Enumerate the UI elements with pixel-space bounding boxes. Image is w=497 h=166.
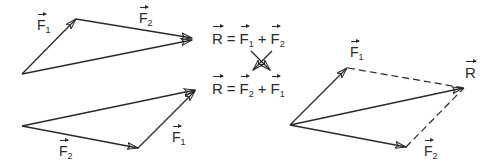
eq-plus: +	[258, 80, 267, 97]
label-letter: F	[139, 11, 148, 25]
eq-lhs: R	[212, 30, 223, 47]
label-subscript: 2	[68, 151, 73, 161]
vector-r	[22, 40, 192, 74]
swap-cross-icon	[251, 51, 272, 70]
label-r: R	[465, 65, 476, 80]
eq-term-a: F	[240, 30, 249, 47]
vector-r	[22, 90, 195, 126]
eq-term-b-sub: 2	[280, 39, 285, 49]
eq-sign: =	[227, 80, 236, 97]
vector-f2	[76, 19, 192, 38]
label-letter: R	[465, 65, 476, 80]
label-f1: F1	[37, 18, 51, 32]
label-subscript: 2	[433, 151, 438, 161]
label-letter: F	[37, 18, 46, 32]
vector-r	[290, 88, 463, 125]
dashed-side-top	[348, 68, 464, 88]
label-f1: F1	[350, 45, 364, 59]
vector-f2	[290, 125, 406, 147]
eq-plus: +	[258, 30, 267, 47]
equation-1: R=F1+F2	[212, 30, 285, 47]
label-letter: F	[59, 144, 68, 158]
dashed-side-right	[406, 88, 464, 147]
label-f2: F2	[59, 144, 73, 158]
label-f2: F2	[139, 11, 153, 25]
eq-term-a: F	[240, 80, 249, 97]
vector-f1	[290, 68, 347, 125]
triangle-f2-f1	[22, 90, 195, 148]
label-subscript: 1	[46, 25, 51, 35]
label-subscript: 2	[148, 18, 153, 28]
label-subscript: 1	[181, 137, 186, 147]
label-f1: F1	[172, 130, 186, 144]
label-letter: F	[350, 45, 359, 59]
eq-sign: =	[227, 30, 236, 47]
equation-2: R=F2+F1	[212, 80, 285, 97]
eq-lhs: R	[212, 80, 223, 97]
eq-term-b: F	[271, 80, 280, 97]
label-letter: F	[424, 144, 433, 158]
eq-term-b: F	[271, 30, 280, 47]
eq-term-b-sub: 1	[280, 89, 285, 99]
label-letter: F	[172, 130, 181, 144]
label-subscript: 1	[359, 52, 364, 62]
vector-f2	[22, 126, 138, 148]
eq-term-a-sub: 1	[249, 39, 254, 49]
eq-term-a-sub: 2	[249, 89, 254, 99]
parallelogram	[290, 68, 464, 147]
label-f2: F2	[424, 144, 438, 158]
